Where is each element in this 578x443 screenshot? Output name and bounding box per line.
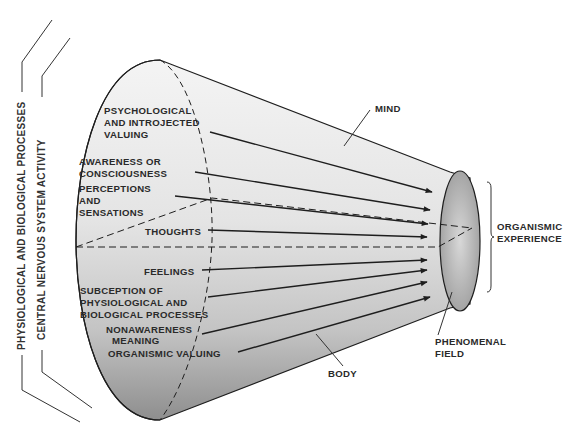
- phenomenal-label: PHENOMENAL: [435, 336, 506, 347]
- label-consciousness: CONSCIOUSNESS: [79, 168, 167, 179]
- label-nonawareness: NONAWARENESS: [106, 324, 193, 335]
- label-sensations: SENSATIONS: [79, 207, 144, 218]
- label-thoughts: THOUGHTS: [145, 226, 202, 237]
- central-nervous-system-activity-label: CENTRAL NERVOUS SYSTEM ACTIVITY: [36, 139, 47, 340]
- experience-label: EXPERIENCE: [497, 233, 562, 244]
- label-meaning: MEANING: [112, 335, 159, 346]
- mind-label: MIND: [375, 103, 401, 114]
- label-valuing: VALUING: [104, 129, 149, 140]
- label-and: AND: [79, 195, 101, 206]
- phenomenal-field-ellipse: [440, 171, 480, 311]
- organismic-experience-brace: [487, 182, 494, 292]
- field-label: FIELD: [435, 348, 464, 359]
- label-subception-of: SUBCEPTION OF: [80, 285, 163, 296]
- label-feelings: FEELINGS: [144, 266, 195, 277]
- label-perceptions: PERCEPTIONS: [79, 183, 151, 194]
- label-physiological-and: PHYSIOLOGICAL AND: [80, 297, 187, 308]
- organismic-label: ORGANISMIC: [497, 221, 562, 232]
- outer-bracket: [22, 20, 80, 422]
- label-awareness-or: AWARENESS OR: [79, 156, 161, 167]
- label-organismic-valuing: ORGANISMIC VALUING: [108, 348, 221, 359]
- label-biological-processes: BIOLOGICAL PROCESSES: [80, 309, 209, 320]
- body-label: BODY: [328, 368, 357, 379]
- organismic-experience-diagram: PHYSIOLOGICAL AND BIOLOGICAL PROCESSES C…: [0, 0, 578, 443]
- label-psychological: PSYCHOLOGICAL: [104, 105, 192, 116]
- label-and-introjected: AND INTROJECTED: [104, 117, 200, 128]
- physiological-biological-processes-label: PHYSIOLOGICAL AND BIOLOGICAL PROCESSES: [16, 102, 27, 350]
